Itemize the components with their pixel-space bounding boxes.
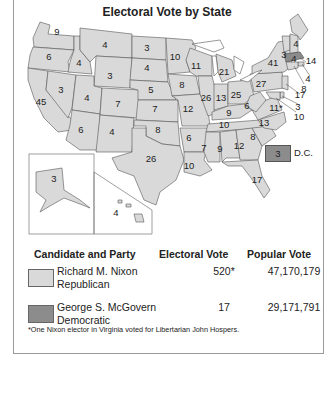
svg-text:4: 4 [291, 53, 296, 64]
candidate-name: George S. McGovern [57, 301, 156, 313]
electoral-vote: 520* [188, 265, 260, 277]
svg-text:9: 9 [54, 26, 59, 37]
svg-text:3: 3 [281, 49, 286, 60]
svg-text:4: 4 [113, 207, 118, 218]
footnote: *One Nixon elector in Virginia voted for… [28, 325, 239, 334]
svg-text:7: 7 [201, 142, 206, 153]
electoral-vote: 17 [188, 301, 260, 313]
header-candidate: Candidate and Party [34, 248, 136, 260]
svg-text:17: 17 [295, 89, 306, 100]
svg-text:11: 11 [191, 60, 201, 71]
svg-text:10: 10 [219, 119, 230, 130]
svg-text:27: 27 [256, 78, 267, 89]
svg-text:41: 41 [268, 57, 279, 68]
democratic-swatch [28, 305, 54, 323]
svg-text:12: 12 [234, 140, 245, 151]
svg-text:6: 6 [244, 100, 249, 111]
svg-text:6: 6 [186, 132, 191, 143]
svg-text:10: 10 [294, 111, 305, 122]
svg-text:9: 9 [217, 143, 222, 154]
header-popular: Popular Vote [247, 248, 311, 260]
svg-text:14: 14 [306, 55, 317, 66]
svg-text:4: 4 [84, 92, 89, 103]
svg-text:4: 4 [144, 62, 149, 73]
svg-text:5: 5 [148, 84, 153, 95]
svg-text:17: 17 [252, 174, 263, 185]
svg-text:3: 3 [58, 84, 63, 95]
svg-text:3: 3 [51, 173, 56, 184]
svg-text:10: 10 [170, 51, 181, 62]
svg-text:3: 3 [144, 42, 149, 53]
popular-vote: 29,171,791 [254, 301, 334, 313]
dc-label: D.C. [294, 147, 313, 158]
svg-text:12: 12 [183, 103, 194, 114]
svg-text:8: 8 [250, 131, 255, 142]
svg-text:6: 6 [78, 124, 83, 135]
svg-text:13: 13 [216, 92, 227, 103]
candidate-name: Richard M. Nixon [57, 265, 138, 277]
svg-text:6: 6 [46, 51, 51, 62]
svg-text:26: 26 [146, 153, 157, 164]
svg-text:11*: 11* [269, 102, 283, 113]
svg-text:4: 4 [293, 38, 298, 49]
states [28, 14, 308, 205]
svg-text:8: 8 [179, 79, 184, 90]
svg-text:13: 13 [259, 117, 270, 128]
republican-swatch [28, 269, 54, 287]
dc-swatch: 3 [265, 145, 291, 162]
svg-text:9: 9 [226, 107, 231, 118]
svg-text:7: 7 [152, 103, 157, 114]
svg-text:21: 21 [219, 66, 230, 77]
svg-text:45: 45 [36, 96, 47, 107]
svg-text:25: 25 [231, 89, 242, 100]
svg-text:4: 4 [109, 126, 114, 137]
svg-text:26: 26 [201, 92, 212, 103]
svg-text:8: 8 [155, 124, 160, 135]
candidate-party: Republican [57, 278, 110, 290]
svg-text:4: 4 [102, 39, 107, 50]
svg-text:3: 3 [107, 70, 112, 81]
svg-text:10: 10 [184, 160, 195, 171]
header-electoral: Electoral Vote [159, 248, 228, 260]
svg-text:7: 7 [115, 98, 120, 109]
popular-vote: 47,170,179 [254, 265, 334, 277]
us-electoral-map: 9 6 45 4 3 4 3 4 6 7 4 3 4 5 7 8 26 10 8… [0, 0, 334, 245]
svg-text:4: 4 [76, 57, 81, 68]
